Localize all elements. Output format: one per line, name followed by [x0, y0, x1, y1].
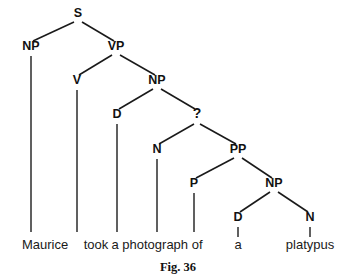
- tree-branch-qnode-to-pp: [200, 124, 236, 144]
- tree-node-p: P: [190, 176, 198, 190]
- tree-node-labels-group: SNPVPVNPD?NPPPNPDN: [22, 6, 314, 224]
- figure-caption: Fig. 36: [160, 260, 196, 274]
- tree-node-s: S: [74, 6, 82, 20]
- tree-branch-np2-to-qnode: [161, 89, 195, 109]
- tree-leaf-maurice: Maurice: [22, 237, 68, 252]
- tree-branch-np3-to-n2: [278, 192, 308, 212]
- tree-node-vp: VP: [108, 39, 125, 53]
- tree-node-n1: N: [152, 142, 161, 156]
- tree-branch-qnode-to-n1: [159, 124, 194, 144]
- tree-leaf-photograph: a photograph of: [111, 237, 202, 252]
- syntax-tree-figure: SNPVPVNPD?NPPPNPDN Mauricetooka photogra…: [0, 0, 349, 279]
- tree-branch-np2-to-d1: [119, 89, 153, 109]
- tree-node-np3: NP: [265, 176, 282, 190]
- tree-node-n2: N: [305, 210, 314, 224]
- tree-node-v: V: [73, 73, 82, 87]
- tree-branch-vp-to-np2: [120, 55, 155, 75]
- tree-branch-pp-to-np3: [242, 158, 272, 178]
- tree-leaf-took: took: [84, 237, 109, 252]
- tree-node-d2: D: [233, 210, 242, 224]
- tree-node-np1: NP: [22, 39, 39, 53]
- tree-node-d1: D: [112, 107, 121, 121]
- tree-branch-pp-to-p: [196, 158, 234, 178]
- tree-node-qnode: ?: [193, 105, 202, 121]
- tree-leaf-platypus: platypus: [286, 237, 335, 252]
- tree-node-np2: NP: [148, 73, 165, 87]
- tree-branch-vp-to-v: [79, 55, 112, 75]
- tree-leaf-a2: a: [234, 237, 242, 252]
- tree-branch-np3-to-d2: [240, 192, 270, 212]
- syntax-tree-canvas: SNPVPVNPD?NPPPNPDN Mauricetooka photogra…: [0, 0, 349, 279]
- tree-leaf-labels-group: Mauricetooka photograph ofaplatypus: [22, 237, 335, 252]
- tree-node-pp: PP: [230, 142, 247, 156]
